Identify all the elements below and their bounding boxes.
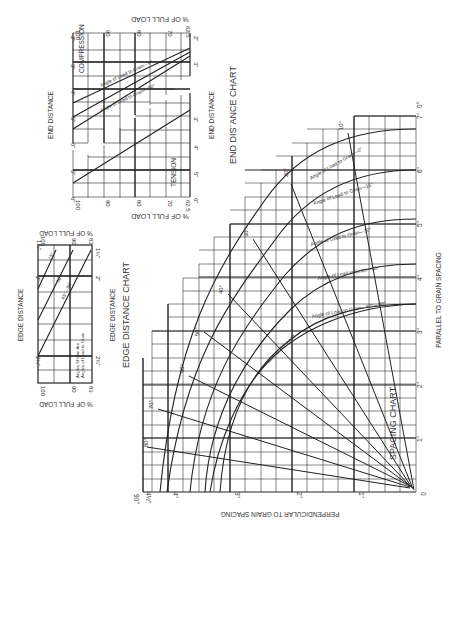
tick-y-3: 3" bbox=[416, 327, 423, 334]
tick-x-3: 3" bbox=[234, 492, 241, 499]
edge-distance-title: EDGE DISTANCE CHART bbox=[121, 261, 131, 368]
curve-30-label: Angle of Load to Grain—30° bbox=[310, 226, 372, 247]
compression-label: COMPRESSION bbox=[78, 24, 85, 73]
spacing-title: SPACING CHART bbox=[388, 386, 398, 460]
ray-10-label: 10° bbox=[338, 120, 344, 130]
compression-grid bbox=[73, 33, 190, 143]
tick: 90 bbox=[105, 200, 111, 207]
edge-bottom-ylabel: % OF FULL LOAD bbox=[39, 401, 93, 408]
spacing-ylabel: PARALLEL TO GRAIN SPACING bbox=[435, 252, 442, 348]
ray-90-label: 90° bbox=[133, 494, 140, 504]
tick: 100 bbox=[40, 386, 46, 397]
curve-60-90-label: Angle of Load to Grain—60°—90° bbox=[311, 300, 386, 319]
tick: 2" bbox=[70, 36, 76, 41]
tick-x-45: 4½" bbox=[145, 492, 152, 504]
tick: 5" bbox=[70, 117, 76, 122]
end-bottom-ylabel: % OF FULL LOAD bbox=[131, 213, 189, 220]
edge-top-ylabel: % OF FULL LOAD bbox=[39, 230, 93, 237]
tick: 4" bbox=[70, 90, 76, 95]
ray-30-label: 30° bbox=[243, 227, 249, 237]
angle-rays bbox=[147, 133, 414, 490]
tick: 4" bbox=[193, 145, 199, 150]
end-xlabel-right: END DISTANCE bbox=[208, 90, 215, 139]
tick: 80 bbox=[136, 30, 142, 37]
curve-0-label: Angle of Load to Grain—0° bbox=[309, 146, 364, 181]
ray-70-label: 70° bbox=[148, 399, 154, 409]
curve-45-label: Angle of Load to Grain—45° bbox=[317, 264, 380, 281]
end-top-ylabel: % OF FULL LOAD bbox=[131, 16, 189, 23]
tick: 3" bbox=[193, 62, 199, 67]
curve-45 bbox=[205, 264, 416, 492]
edge-xlabel-left: EDGE DISTANCE bbox=[17, 288, 24, 341]
tick: 2" bbox=[95, 276, 101, 281]
edge-xlabel-right: EDGE DISTANCE bbox=[109, 288, 116, 341]
tick-y-2: 2" bbox=[416, 381, 423, 388]
tick-y-4: 4" bbox=[416, 274, 423, 281]
ray-20-label: 20° bbox=[283, 167, 289, 177]
tick-x-0: 0 bbox=[420, 492, 427, 496]
tick: 6" bbox=[70, 143, 76, 148]
ray-80 bbox=[147, 447, 410, 488]
ray-80-label: 80° bbox=[143, 437, 149, 447]
tick: 100 bbox=[75, 200, 81, 211]
tick-x-4: 4" bbox=[172, 492, 179, 499]
ray-0-label: 0° bbox=[416, 101, 423, 108]
curve-15-label: Angle of Load to Grain—15° bbox=[312, 181, 373, 206]
tick-y-5: 5" bbox=[416, 220, 423, 227]
tick: 2" bbox=[193, 36, 199, 41]
tick: 6" bbox=[193, 198, 199, 203]
tick: 83 bbox=[88, 238, 94, 245]
ray-70 bbox=[158, 409, 410, 487]
tick: 2¾" bbox=[35, 356, 41, 366]
tick: 2" bbox=[35, 276, 41, 281]
tick-x-1: 1" bbox=[358, 492, 365, 499]
tick: 3" bbox=[70, 64, 76, 69]
tick: 90 bbox=[71, 386, 77, 393]
tick: 62.5 bbox=[185, 200, 191, 212]
tick-y-1: 1" bbox=[416, 435, 423, 442]
tick-y-7: 7" bbox=[416, 112, 423, 119]
tick: 80 bbox=[136, 200, 142, 207]
end-distance-labels: % OF FULL LOAD 100 90 80 70 62.5 2" 3" 4… bbox=[47, 16, 238, 220]
curve-30 bbox=[190, 219, 416, 492]
tick: 83 bbox=[88, 386, 94, 393]
tick-y-6: 6" bbox=[416, 166, 423, 173]
tick: 70 bbox=[167, 200, 173, 207]
spacing-xlabel: PERPENDICULAR TO GRAIN SPACING bbox=[221, 511, 340, 518]
tick: 5" bbox=[70, 170, 76, 175]
ray-40-label: 40° bbox=[218, 284, 224, 294]
edge-distance-labels: % OF FULL LOAD 100 90 83 1¾" 2" 2¾" 1¾" … bbox=[17, 230, 131, 408]
tick: 1¾" bbox=[95, 248, 101, 258]
chart-canvas: % OF FULL LOAD 100 90 80 70 62.5 2" 3" 4… bbox=[0, 0, 473, 618]
tick-x-2: 2" bbox=[296, 492, 303, 499]
ray-60-label: 60° bbox=[179, 363, 185, 373]
edge-note-2: Angles of Load to Grain bbox=[80, 332, 85, 378]
tick: 5" bbox=[193, 172, 199, 177]
tick: 62.5 bbox=[185, 26, 191, 38]
tick: 70 bbox=[167, 30, 173, 37]
tension-label: TENSION bbox=[170, 158, 177, 187]
spacing-labels: 0 1" 2" 3" 4" 4½" 90° 1" 2" 3" 4" 5" 6" … bbox=[133, 101, 442, 518]
tick: 3" bbox=[193, 117, 199, 122]
tick: 90 bbox=[71, 238, 77, 245]
ray-50-label: 50° bbox=[194, 326, 200, 336]
tick: 90 bbox=[105, 30, 111, 37]
tick: 1¾" bbox=[36, 240, 42, 250]
end-distance-title: END DIS¨ANCE CHART bbox=[228, 66, 238, 164]
tick: 2¾" bbox=[95, 356, 101, 366]
end-xlabel-left: END DISTANCE bbox=[47, 90, 54, 139]
